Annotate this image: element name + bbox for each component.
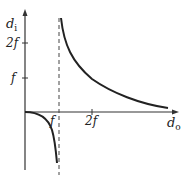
y-axis-label: di bbox=[6, 16, 17, 33]
x-axis-arrow-icon bbox=[172, 110, 179, 115]
x-tick-label-f: f bbox=[49, 114, 57, 128]
y-tick-label-f: f bbox=[10, 71, 18, 85]
x-tick-label-2f: 2f bbox=[84, 114, 100, 128]
y-tick-label-2f: 2f bbox=[5, 36, 21, 50]
y-axis-arrow-icon bbox=[23, 9, 28, 16]
lens-diagram: di 2f f f 2f do bbox=[0, 0, 191, 179]
x-axis-label: do bbox=[167, 115, 181, 132]
curve-upper-branch bbox=[61, 18, 168, 108]
